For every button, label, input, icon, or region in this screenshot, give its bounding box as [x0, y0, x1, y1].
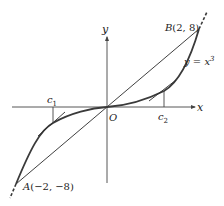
- curve-extension-a: [10, 184, 16, 198]
- c1-sub: 1: [53, 100, 57, 108]
- tangent-c2: [149, 80, 176, 101]
- mvt-diagram: y x O B(2, 8) y = x3 A(−2, −8) c1 c2: [0, 0, 224, 206]
- y-axis-label: y: [101, 23, 109, 36]
- c2-sub: 2: [164, 117, 168, 125]
- c1-label: c1: [47, 94, 57, 108]
- curve-label: y = x3: [183, 55, 215, 67]
- point-b-label: B(2, 8): [164, 22, 199, 33]
- x-axis-label: x: [197, 101, 204, 114]
- point-a-label: A(−2, −8): [22, 181, 74, 192]
- point-b-coords: (2, 8): [172, 22, 199, 33]
- point-b-name: B: [164, 22, 172, 33]
- point-a-coords: (−2, −8): [30, 181, 74, 192]
- curve-extension-b: [199, 12, 207, 29]
- curve-label-exp: 3: [210, 55, 215, 63]
- tangent-c1: [38, 112, 65, 136]
- origin-label: O: [109, 112, 117, 123]
- curve-label-base: y = x: [183, 56, 210, 67]
- c2-label: c2: [158, 111, 168, 125]
- point-a-name: A: [22, 181, 30, 192]
